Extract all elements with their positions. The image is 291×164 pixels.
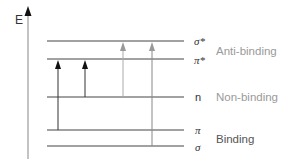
axis-label: E: [15, 14, 23, 26]
arrowhead-icon: [120, 42, 126, 51]
group-label-binding: Binding: [216, 133, 254, 145]
group-label-anti-binding: Anti-binding: [216, 45, 277, 57]
group-label-non-binding: Non-binding: [216, 91, 278, 103]
transition-pi-to-pi-star: [55, 60, 61, 130]
energy-axis: [25, 6, 32, 159]
level-label-sigma: σ: [195, 141, 200, 153]
level-label-pi-star: π*: [194, 54, 205, 66]
arrowhead-icon: [149, 42, 155, 51]
level-label-n: n: [195, 91, 201, 103]
level-label-pi: π: [195, 124, 201, 136]
transition-n-to-pi-star: [82, 60, 88, 97]
level-label-sigma-star: σ*: [194, 35, 205, 47]
energy-levels: [47, 41, 184, 146]
arrowhead-icon: [82, 60, 88, 69]
transition-n-to-sigma-star: [120, 42, 126, 97]
arrowhead-icon: [55, 60, 61, 69]
axis-arrow-icon: [25, 6, 32, 16]
